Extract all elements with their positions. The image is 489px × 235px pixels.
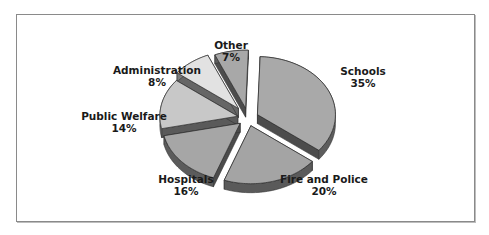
label-hospitals-name: Hospitals bbox=[158, 173, 213, 185]
label-fire-police-name: Fire and Police bbox=[280, 173, 368, 185]
label-other: Other 7% bbox=[214, 39, 248, 63]
label-hospitals-value: 16% bbox=[158, 185, 213, 197]
label-schools-name: Schools bbox=[340, 65, 386, 77]
pie-chart bbox=[0, 0, 489, 235]
label-other-value: 7% bbox=[214, 51, 248, 63]
label-other-name: Other bbox=[214, 39, 248, 51]
label-schools: Schools 35% bbox=[340, 65, 386, 89]
label-fire-police-value: 20% bbox=[280, 185, 368, 197]
label-public-welfare-name: Public Welfare bbox=[81, 110, 167, 122]
label-public-welfare-value: 14% bbox=[81, 122, 167, 134]
label-public-welfare: Public Welfare 14% bbox=[81, 110, 167, 134]
label-administration: Administration 8% bbox=[113, 64, 201, 88]
label-hospitals: Hospitals 16% bbox=[158, 173, 213, 197]
label-administration-name: Administration bbox=[113, 64, 201, 76]
label-fire-police: Fire and Police 20% bbox=[280, 173, 368, 197]
label-administration-value: 8% bbox=[113, 76, 201, 88]
label-schools-value: 35% bbox=[340, 77, 386, 89]
